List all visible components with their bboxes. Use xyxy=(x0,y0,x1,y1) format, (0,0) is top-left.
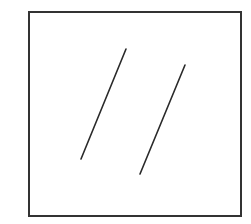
square-frame xyxy=(29,12,241,216)
diagram-figure xyxy=(0,0,251,224)
diagonal-line-right xyxy=(140,65,185,174)
diagonal-line-left xyxy=(81,49,126,159)
diagram-canvas xyxy=(0,0,251,224)
